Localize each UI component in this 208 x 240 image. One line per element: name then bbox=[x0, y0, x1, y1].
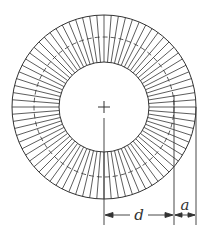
radial-line bbox=[15, 86, 61, 97]
radial-line bbox=[148, 114, 194, 121]
radial-line bbox=[108, 152, 112, 199]
radial-line bbox=[111, 16, 118, 62]
radial-line bbox=[15, 118, 61, 129]
radial-line bbox=[133, 37, 164, 73]
radial-line bbox=[97, 15, 101, 62]
radial-line bbox=[12, 100, 59, 104]
radial-line bbox=[34, 47, 70, 78]
radial-line bbox=[140, 133, 178, 161]
ring-diagram: d a bbox=[0, 0, 208, 240]
radial-line bbox=[44, 141, 75, 177]
radial-line bbox=[133, 141, 164, 177]
radial-line bbox=[30, 133, 68, 161]
radial-line bbox=[138, 47, 174, 78]
radial-line bbox=[148, 118, 194, 129]
radial-line bbox=[115, 18, 126, 64]
radial-line bbox=[90, 151, 97, 197]
radial-line bbox=[148, 86, 194, 97]
radial-line bbox=[108, 15, 112, 62]
radial-line bbox=[12, 111, 59, 115]
radial-line bbox=[17, 79, 62, 94]
radial-line bbox=[97, 152, 101, 199]
radial-line bbox=[115, 151, 126, 197]
radial-line bbox=[50, 33, 78, 71]
radial-line bbox=[148, 93, 194, 100]
radial-line bbox=[13, 93, 59, 100]
radial-line bbox=[76, 20, 91, 65]
dimension-label-a: a bbox=[181, 196, 190, 214]
radial-line bbox=[149, 100, 196, 104]
radial-line bbox=[83, 18, 94, 64]
radial-line bbox=[83, 151, 94, 197]
radial-line bbox=[149, 111, 196, 115]
radial-line bbox=[44, 37, 75, 73]
radial-line bbox=[130, 33, 158, 71]
dimension-label-d: d bbox=[134, 206, 144, 224]
radial-line bbox=[90, 16, 97, 62]
radial-line bbox=[138, 136, 174, 167]
radial-line bbox=[34, 136, 70, 167]
radial-line bbox=[111, 151, 118, 197]
arrow-right-icon bbox=[165, 213, 173, 218]
radial-line bbox=[13, 114, 59, 121]
radial-line bbox=[30, 53, 68, 81]
radial-line bbox=[140, 53, 178, 81]
center-mark-icon bbox=[98, 101, 110, 113]
radial-line bbox=[50, 143, 78, 181]
radial-line bbox=[130, 143, 158, 181]
arrow-left-icon bbox=[105, 213, 113, 218]
